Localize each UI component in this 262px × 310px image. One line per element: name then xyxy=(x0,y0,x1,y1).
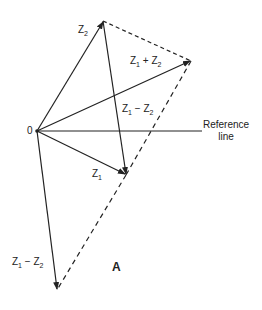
z1-plus-z2-label: Z1 + Z2 xyxy=(130,55,161,66)
z1-plus-z2-vector xyxy=(37,61,190,131)
reference-line-label: Reference line xyxy=(203,119,249,143)
origin-label: 0 xyxy=(27,125,33,136)
z2-label: Z2 xyxy=(78,24,88,35)
z1-minus-z2-upper-label: Z1 − Z2 xyxy=(122,103,153,114)
panel-label: A xyxy=(112,260,121,274)
z1-minus-z2-upper-vector xyxy=(103,21,126,174)
z2-vector xyxy=(37,22,103,131)
reference-line-label-1: Reference xyxy=(203,119,249,131)
dashed-sum-to-z1 xyxy=(126,61,191,175)
reference-line-label-2: line xyxy=(203,131,249,143)
z1-vector xyxy=(37,131,125,174)
z1-minus-z2-lower-label: Z1 − Z2 xyxy=(12,256,43,267)
origin-point xyxy=(35,129,39,133)
z1-label: Z1 xyxy=(92,168,102,179)
